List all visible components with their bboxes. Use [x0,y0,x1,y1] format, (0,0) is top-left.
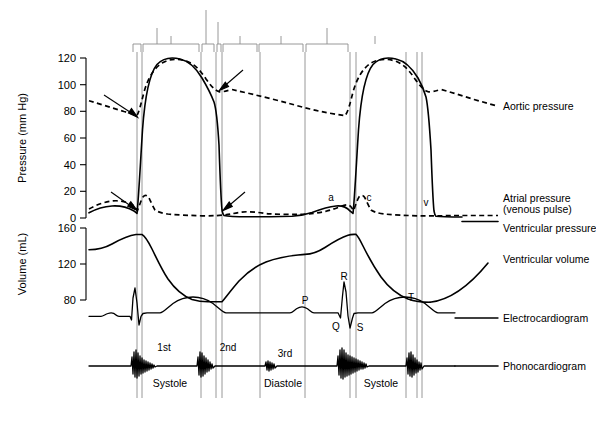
pressure-axis: 120 100 80 60 40 20 0 Pressure (mm Hg) [16,52,86,224]
volume-axis: 160 120 80 Volume (mL) [16,222,86,306]
legend-item-ventricular-pressure: Ventricular pressure [462,222,596,235]
legend-item-aortic-pressure: Aortic pressure [474,100,574,113]
legend-label-electrocardiogram: Electrocardiogram [503,312,588,324]
atrial-pressure-trace [89,195,454,215]
legend-label-atrial-pressure-sub: (venous pulse) [503,203,572,215]
legend-item-atrial-pressure: Atrial pressure (venous pulse) [454,192,572,216]
pressure-tick-20: 20 [64,185,76,197]
pressure-tick-40: 40 [64,159,76,171]
ecg-s-wave-label: S [357,322,364,333]
pressure-tick-60: 60 [64,132,76,144]
phase-label-diastole: Diastole [264,377,302,389]
ecg-q-wave-label: Q [332,321,340,332]
timing-gridlines [137,52,422,398]
phase-label-systole-2: Systole [364,377,399,389]
legend-label-ventricular-volume: Ventricular volume [503,253,590,265]
ventricular-volume-trace [89,234,430,302]
ecg-p-wave-label: P [302,295,309,306]
atrial-a-wave-label: a [328,192,334,203]
heart-sound-1st-label: 1st [157,342,171,353]
atrial-c-wave-label: c [367,192,372,203]
volume-tick-120: 120 [58,258,76,270]
legend-label-aortic-pressure: Aortic pressure [503,100,574,112]
volume-tick-160: 160 [58,222,76,234]
phase-label-systole-1: Systole [153,377,188,389]
legend-item-electrocardiogram: Electrocardiogram [455,312,588,324]
pressure-tick-100: 100 [58,79,76,91]
cardiac-cycle-figure: 120 100 80 60 40 20 0 Pressure (mm Hg) 1… [0,0,596,424]
phase-bracket-bar [133,10,375,52]
legend-item-ventricular-volume: Ventricular volume [430,253,590,302]
atrial-v-wave-label: v [424,197,429,208]
aortic-valve-close-arrow [219,70,243,91]
phase-labels: Systole Diastole Systole [153,377,399,389]
pressure-axis-label: Pressure (mm Hg) [16,93,28,183]
legend-item-phonocardiogram: Phonocardiogram [455,360,586,372]
ecg-wave-labels: P Q R S T [302,271,414,333]
pressure-tick-80: 80 [64,105,76,117]
ecg-t-wave-label: T [408,292,414,303]
legend-label-phonocardiogram: Phonocardiogram [503,360,586,372]
wiggers-diagram-svg: 120 100 80 60 40 20 0 Pressure (mm Hg) 1… [0,0,596,424]
volume-axis-label: Volume (mL) [16,233,28,295]
legend-label-ventricular-pressure: Ventricular pressure [503,222,596,234]
mitral-valve-open-arrow [223,192,245,210]
heart-sound-3rd-label: 3rd [278,348,292,359]
heart-sound-2nd-label: 2nd [220,342,237,353]
electrocardiogram-trace [89,282,455,328]
phonocardiogram-trace [89,348,455,379]
ecg-r-wave-label: R [340,271,347,282]
heart-sound-labels: 1st 2nd 3rd [157,342,292,359]
series-legend: Aortic pressure Atrial pressure (venous … [430,100,596,373]
pressure-tick-120: 120 [58,52,76,64]
volume-tick-80: 80 [64,294,76,306]
aortic-pressure-trace [89,59,474,115]
